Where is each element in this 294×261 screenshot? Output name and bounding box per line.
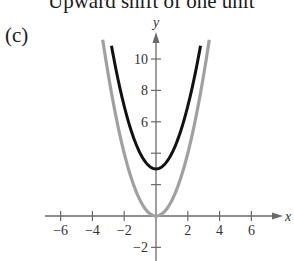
parabola-chart: x y −6−4−2246 −26810 [0,0,294,261]
x-tick-label: 6 [248,223,255,238]
x-tick-label: −4 [85,223,100,238]
y-ticks: −26810 [133,52,161,255]
axes: x y [45,15,292,261]
x-tick-label: 2 [184,223,191,238]
y-axis-label: y [151,15,160,30]
y-tick-label: 10 [134,52,148,67]
x-axis-arrow-icon [272,213,283,220]
y-tick-label: 8 [141,83,148,98]
x-tick-label: 4 [216,223,223,238]
x-tick-label: −6 [53,223,68,238]
x-tick-label: −2 [117,223,132,238]
y-axis-arrow-icon [153,32,160,43]
y-tick-label: 6 [141,115,148,130]
y-tick-label: −2 [133,240,148,255]
x-axis-label: x [284,209,292,224]
